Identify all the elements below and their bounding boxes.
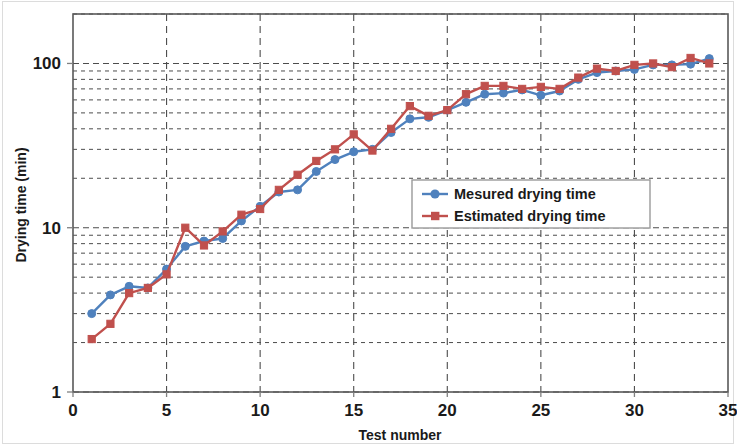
data-point-marker	[88, 335, 95, 342]
data-point-marker	[313, 157, 320, 164]
data-point-marker	[106, 291, 114, 299]
data-point-marker	[350, 148, 358, 156]
data-point-marker	[312, 167, 320, 175]
data-point-marker	[163, 271, 170, 278]
data-point-marker	[425, 112, 432, 119]
x-tick-label: 35	[719, 401, 737, 420]
data-point-marker	[462, 98, 470, 106]
data-point-marker	[369, 147, 376, 154]
x-tick-label: 30	[625, 401, 644, 420]
data-point-marker	[575, 74, 582, 81]
legend-marker-square	[431, 212, 439, 220]
data-point-marker	[668, 64, 675, 71]
y-tick-label: 100	[33, 54, 61, 73]
x-axis-title: Test number	[359, 427, 443, 443]
data-point-marker	[481, 82, 488, 89]
data-point-marker	[519, 85, 526, 92]
data-point-marker	[499, 89, 507, 97]
x-tick-label: 0	[68, 401, 77, 420]
data-point-marker	[706, 60, 713, 67]
drying-time-log-chart: 05101520253035 100101 Test number Drying…	[0, 0, 737, 447]
data-point-marker	[481, 90, 489, 98]
chart-page: 05101520253035 100101 Test number Drying…	[0, 0, 737, 447]
data-point-marker	[182, 224, 189, 231]
data-point-marker	[388, 125, 395, 132]
data-point-marker	[687, 54, 694, 61]
legend-label: Mesured drying time	[454, 186, 596, 202]
data-point-marker	[331, 146, 338, 153]
x-tick-label: 20	[438, 401, 457, 420]
data-point-marker	[350, 131, 357, 138]
data-point-marker	[650, 60, 657, 67]
data-point-marker	[462, 91, 469, 98]
data-point-marker	[444, 107, 451, 114]
data-point-marker	[500, 82, 507, 89]
x-tick-label: 25	[531, 401, 550, 420]
data-point-marker	[331, 156, 339, 164]
x-tick-label: 5	[162, 401, 171, 420]
chart-legend[interactable]: Mesured drying timeEstimated drying time	[412, 180, 650, 228]
data-point-marker	[126, 290, 133, 297]
data-point-marker	[537, 91, 545, 99]
legend-marker-diamond	[430, 189, 439, 198]
data-point-marker	[537, 83, 544, 90]
legend-label: Estimated drying time	[454, 208, 605, 224]
x-tick-label: 10	[251, 401, 270, 420]
data-point-marker	[294, 186, 302, 194]
data-point-marker	[200, 242, 207, 249]
y-axis-tick-labels: 100101	[33, 54, 61, 402]
data-point-marker	[181, 242, 189, 250]
data-point-marker	[275, 186, 282, 193]
y-axis-title: Drying time (min)	[13, 147, 29, 262]
data-point-marker	[219, 228, 226, 235]
data-point-marker	[88, 310, 96, 318]
y-tick-label: 10	[42, 219, 61, 238]
data-point-marker	[612, 67, 619, 74]
x-tick-label: 15	[344, 401, 363, 420]
data-point-marker	[294, 171, 301, 178]
data-point-marker	[631, 61, 638, 68]
data-point-marker	[556, 85, 563, 92]
data-point-marker	[144, 284, 151, 291]
data-point-marker	[406, 103, 413, 110]
data-point-marker	[107, 320, 114, 327]
data-point-marker	[593, 65, 600, 72]
data-point-marker	[406, 115, 414, 123]
y-tick-label: 1	[52, 383, 61, 402]
data-point-marker	[257, 205, 264, 212]
data-point-marker	[219, 234, 227, 242]
x-axis-tick-labels: 05101520253035	[68, 401, 737, 420]
data-point-marker	[238, 211, 245, 218]
